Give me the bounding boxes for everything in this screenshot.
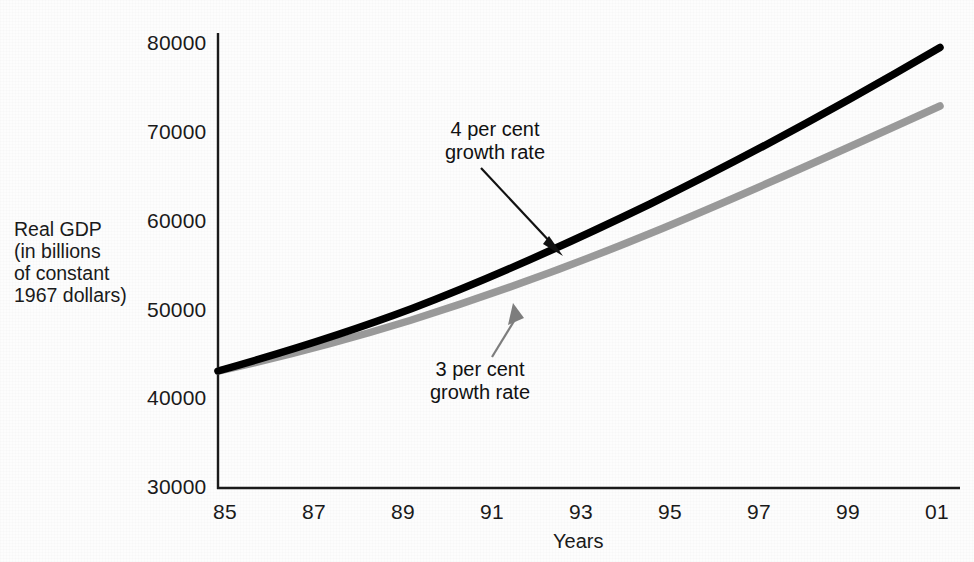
annotation-3-per-cent-line-2: growth rate: [385, 381, 575, 404]
x-tick-label-01: 01: [925, 500, 949, 524]
x-tick-label-85: 85: [213, 500, 237, 524]
annotation-arrow-3-per-cent: [492, 303, 524, 357]
x-tick-label-87: 87: [302, 500, 326, 524]
x-axis-title: Years: [553, 530, 603, 553]
x-tick-label-97: 97: [747, 500, 771, 524]
y-tick-label-60000: 60000: [147, 209, 206, 233]
y-tick-label-50000: 50000: [147, 298, 206, 322]
annotation-3-per-cent-line-1: 3 per cent: [385, 358, 575, 381]
y-tick-label-80000: 80000: [147, 31, 206, 55]
y-tick-label-30000: 30000: [147, 475, 206, 499]
annotation-4-per-cent-line-2: growth rate: [400, 141, 590, 164]
y-axis-title-line-1: Real GDP: [14, 218, 102, 240]
annotation-label-4-per-cent: 4 per cent growth rate: [400, 118, 590, 164]
y-axis-title-line-2: (in billions: [14, 240, 101, 262]
x-tick-label-99: 99: [836, 500, 860, 524]
annotation-4-per-cent-line-1: 4 per cent: [400, 118, 590, 141]
x-tick-label-91: 91: [480, 500, 504, 524]
chart-figure: 80000 70000 60000 50000 40000 30000 85 8…: [0, 0, 974, 562]
annotation-label-3-per-cent: 3 per cent growth rate: [385, 358, 575, 404]
y-tick-label-40000: 40000: [147, 386, 206, 410]
x-tick-label-95: 95: [658, 500, 682, 524]
annotation-arrow-4-per-cent: [481, 168, 563, 256]
y-tick-label-70000: 70000: [147, 120, 206, 144]
series-line-4-per-cent: [218, 48, 940, 372]
x-tick-label-93: 93: [569, 500, 593, 524]
x-tick-label-89: 89: [391, 500, 415, 524]
y-axis-title-line-3: of constant: [14, 262, 109, 284]
y-axis-title-line-4: 1967 dollars): [14, 284, 127, 306]
